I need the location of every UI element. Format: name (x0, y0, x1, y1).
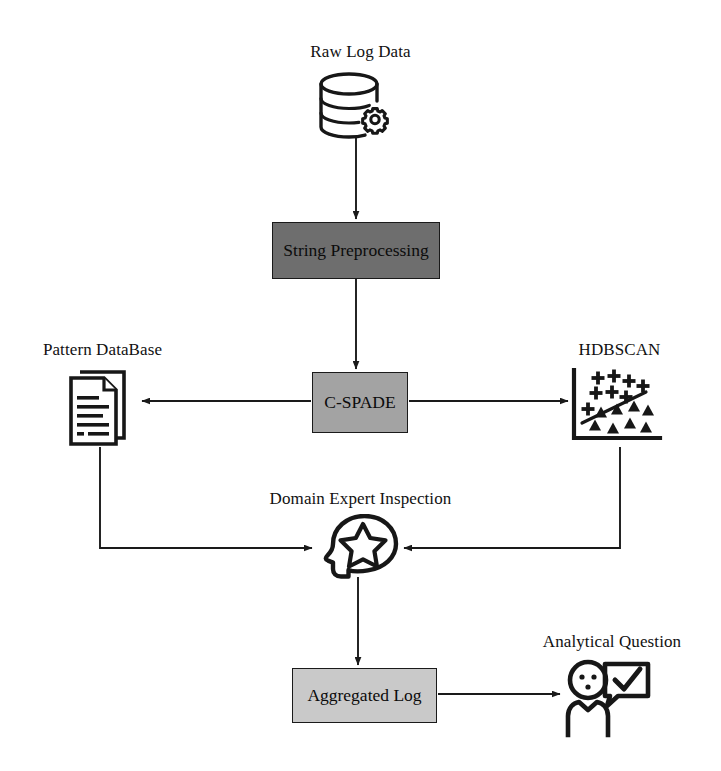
analytical-question-label: Analytical Question (512, 632, 712, 652)
scatter-plot-icon (568, 366, 666, 448)
aggregated-log-box[interactable]: Aggregated Log (292, 668, 437, 723)
string-preprocessing-label: String Preprocessing (283, 240, 428, 261)
hdbscan-label: HDBSCAN (532, 340, 707, 360)
person-check-bubble-icon (560, 658, 656, 738)
cspade-box[interactable]: C-SPADE (312, 372, 408, 433)
database-gear-icon (311, 70, 401, 142)
cspade-label: C-SPADE (324, 392, 395, 413)
pattern-database-label: Pattern DataBase (10, 340, 195, 360)
domain-expert-inspection-label: Domain Expert Inspection (0, 489, 721, 509)
raw-log-data-label: Raw Log Data (0, 42, 721, 62)
string-preprocessing-box[interactable]: String Preprocessing (272, 222, 440, 279)
head-star-icon (312, 514, 404, 580)
aggregated-log-label: Aggregated Log (307, 685, 421, 706)
diagram-canvas: Raw Log Data String Preprocessing Patter… (0, 0, 721, 771)
document-stack-icon (64, 366, 142, 448)
